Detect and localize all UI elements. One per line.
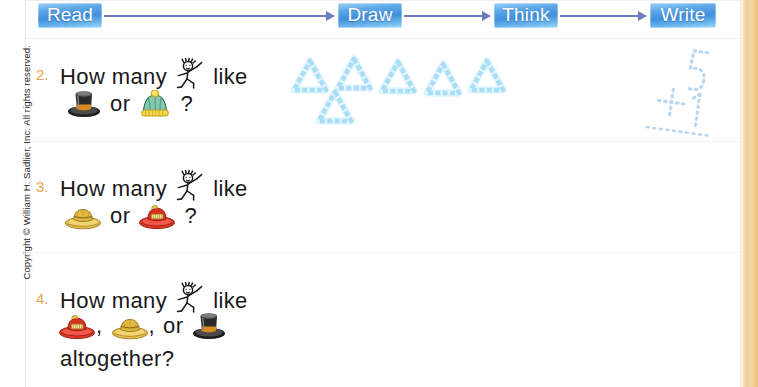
problem-2-line-2: or? [66,90,193,118]
problem-4-line-3: altogether? [60,346,175,372]
top-hat-icon [66,90,102,118]
problem-2-text-a: How many [60,64,167,90]
flow-step-read[interactable]: Read [38,3,102,28]
traced-digit-1 [695,94,700,128]
drawn-triangle [421,59,465,99]
divider-problem-2 [26,141,740,142]
traced-addition-icon [640,42,730,142]
problem-3-text-b: like [213,176,248,202]
flow-step-think[interactable]: Think [494,3,558,28]
arrow-read-to-draw-icon [104,15,334,17]
problem-3-text-a: How many [60,176,167,202]
write-workspace[interactable] [640,42,730,142]
flow-step-think-label: Think [502,4,549,25]
flow-step-draw-label: Draw [347,4,392,25]
problem-3-line-1: How manylike [60,170,248,202]
arrow-think-to-write-icon [560,15,646,17]
problem-4-join: or [163,313,183,339]
worksheet-page: Copyright © William H. Sadlier, Inc. All… [0,0,758,387]
problem-2-text-b: like [213,64,248,90]
drawn-triangle [313,87,357,127]
problem-3-join: or [110,203,130,229]
flow-step-read-label: Read [47,4,93,25]
problem-2-join: or [110,91,130,117]
straw-hat-icon [64,206,102,230]
drawn-triangle [376,57,420,97]
problem-2-line-1: How manylike [60,58,248,90]
problem-2-end: ? [180,91,193,117]
straw-hat-icon [111,316,149,340]
traced-plus-vertical [670,89,674,115]
traced-digit-5 [687,51,707,91]
drawn-triangle [465,56,509,96]
problem-4-line-1: How manylike [60,282,248,314]
copyright-notice: Copyright © William H. Sadlier, Inc. All… [21,36,32,280]
divider-header [26,38,740,39]
problem-4-number: 4. [36,290,49,307]
stick-figure-icon [175,282,205,314]
process-flow-bar: Read Draw Think Write [26,0,740,38]
flow-step-write[interactable]: Write [650,3,716,28]
fire-hat-icon [58,314,96,340]
draw-workspace[interactable] [288,52,538,132]
knit-cap-icon [138,90,172,118]
problem-4-comma-1: , [96,313,103,339]
problem-4-comma-2: , [149,313,156,339]
stick-figure-icon [175,170,205,202]
problem-4-text-a: How many [60,288,167,314]
right-color-band [742,0,758,387]
problem-4-line-2: ,,or [58,312,227,340]
flow-step-draw[interactable]: Draw [338,3,402,28]
arrow-draw-to-think-icon [404,15,490,17]
flow-step-write-label: Write [661,4,706,25]
problem-3-number: 3. [36,178,49,195]
top-hat-icon [191,312,227,340]
fire-hat-icon [138,204,176,230]
problem-4-text-b: like [213,288,248,314]
divider-problem-3 [26,252,740,253]
problem-2-number: 2. [36,66,49,83]
traced-sum-rule [647,127,710,136]
stick-figure-icon [175,58,205,90]
problem-3-line-2: or? [64,202,197,230]
problem-3-end: ? [184,203,197,229]
